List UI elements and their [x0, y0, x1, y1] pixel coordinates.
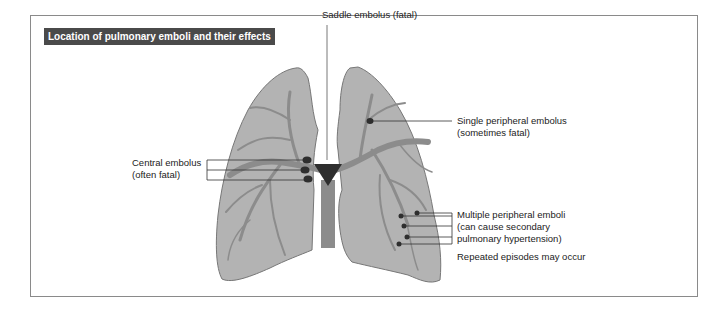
lungs-illustration	[0, 0, 720, 311]
single-peripheral-label-line1: Single peripheral embolus	[457, 115, 567, 127]
single-peripheral-label-line2: (sometimes fatal)	[457, 127, 567, 139]
central-embolus-2	[301, 167, 310, 174]
central-embolus-3	[304, 176, 313, 183]
central-embolus-label-line1: Central embolus	[132, 157, 201, 169]
saddle-embolus	[314, 164, 342, 186]
saddle-embolus-label: Saddle embolus (fatal)	[322, 9, 417, 21]
right-lung	[337, 67, 441, 282]
multiple-peripheral-label-line3: pulmonary hypertension)	[457, 233, 565, 245]
central-embolus-label: Central embolus (often fatal)	[132, 157, 201, 181]
central-embolus-1	[303, 157, 312, 164]
trachea	[321, 180, 335, 248]
multiple-peripheral-label: Multiple peripheral emboli (can cause se…	[457, 209, 565, 245]
single-peripheral-label: Single peripheral embolus (sometimes fat…	[457, 115, 567, 139]
multiple-peripheral-label-line1: Multiple peripheral emboli	[457, 209, 565, 221]
multiple-peripheral-label-line2: (can cause secondary	[457, 221, 565, 233]
repeated-episodes-label: Repeated episodes may occur	[457, 251, 585, 263]
single-peripheral-embolus	[367, 118, 374, 124]
central-embolus-label-line2: (often fatal)	[132, 169, 201, 181]
